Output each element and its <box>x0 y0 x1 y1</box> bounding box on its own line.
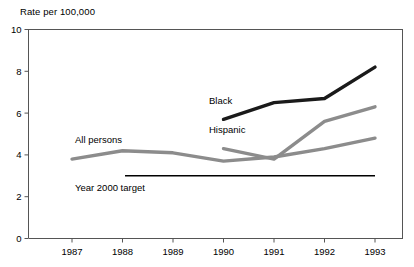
x-axis-tick-labels: 1987198819891990199119921993 <box>61 246 385 257</box>
data-series-group <box>72 67 375 161</box>
y-tick-label: 10 <box>11 24 22 35</box>
y-tick-label: 4 <box>16 149 21 160</box>
series-line-black <box>224 67 376 119</box>
line-chart-plot: 0246810 1987198819891990199119921993 All… <box>0 0 414 267</box>
x-tick-label: 1990 <box>213 246 234 257</box>
x-tick-label: 1987 <box>61 246 82 257</box>
x-tick-label: 1992 <box>314 246 335 257</box>
series-label-all-persons: All persons <box>75 134 122 145</box>
x-tick-label: 1993 <box>364 246 385 257</box>
series-label-black: Black <box>209 95 232 106</box>
annotation-label-year-2000-target: Year 2000 target <box>75 182 145 193</box>
x-tick-label: 1991 <box>263 246 284 257</box>
series-label-hispanic: Hispanic <box>209 124 246 135</box>
x-tick-label: 1988 <box>112 246 133 257</box>
y-axis-ticks <box>25 30 29 239</box>
y-tick-label: 6 <box>16 108 21 119</box>
y-tick-label: 8 <box>16 66 21 77</box>
y-tick-label: 0 <box>16 233 21 244</box>
y-tick-label: 2 <box>16 191 21 202</box>
x-axis-ticks <box>72 239 375 243</box>
chart-container: Rate per 100,000 0246810 198719881989199… <box>0 0 414 267</box>
x-tick-label: 1989 <box>162 246 183 257</box>
y-axis-tick-labels: 0246810 <box>11 24 22 244</box>
